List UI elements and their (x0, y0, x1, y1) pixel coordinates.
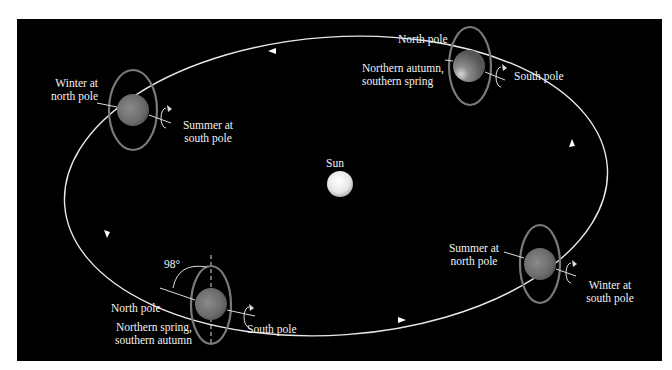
sun (327, 171, 353, 197)
season-label-line2: southern autumn (100, 334, 192, 347)
south-pole-label-top-right: South pole (514, 70, 564, 83)
arrow-right-icon (569, 139, 575, 147)
planet-bottom-right (504, 225, 577, 303)
season-label-line2: southern spring (362, 75, 444, 88)
pole-label-line2: south pole (580, 292, 640, 305)
pole-label-line1: Summer at (178, 119, 238, 132)
sun-label: Sun (326, 157, 344, 170)
season-label-line1: Northern spring, (100, 321, 192, 334)
season-label-bottom-right: Summer at north pole (444, 242, 504, 268)
arrow-bottom-icon (398, 317, 406, 323)
season-label-line1: Winter at (40, 77, 98, 90)
pole-label-bottom-right: Winter at south pole (580, 279, 640, 305)
planet-top-left (97, 70, 172, 150)
season-label-line1: Summer at (444, 242, 504, 255)
arrow-left-icon (104, 230, 110, 238)
season-label-line1: Northern autumn, (362, 62, 444, 75)
north-pole-label-bottom-left: North pole (111, 302, 161, 315)
pole-label-top-left: Summer at south pole (178, 119, 238, 145)
rotation-arrow-icon (161, 108, 166, 128)
south-pole-label-bottom-left: South pole (247, 323, 297, 336)
orbit-diagram (0, 0, 672, 370)
season-label-bottom-left: Northern spring, southern autumn (100, 321, 192, 347)
pole-label-line1: Winter at (580, 279, 640, 292)
pole-label-line2: south pole (178, 132, 238, 145)
season-label-top-left: Winter at north pole (40, 77, 98, 103)
arrow-top-icon (268, 48, 276, 54)
tilt-angle-label: 98° (164, 258, 180, 271)
season-label-line2: north pole (40, 90, 98, 103)
planet-top-right (445, 27, 507, 105)
season-label-line2: north pole (444, 255, 504, 268)
season-label-top-right: Northern autumn, southern spring (362, 62, 444, 88)
north-pole-label-top-right: North pole (398, 33, 448, 46)
